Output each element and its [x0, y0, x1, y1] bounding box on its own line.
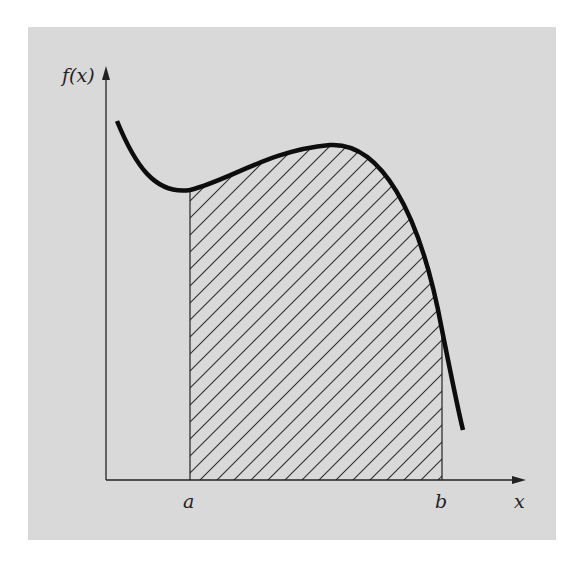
integral-diagram: f(x) x a b: [0, 0, 583, 561]
y-axis-label: f(x): [60, 64, 95, 86]
upper-limit-label: b: [435, 490, 447, 512]
lower-limit-label: a: [183, 490, 194, 512]
x-axis-label: x: [514, 490, 525, 512]
